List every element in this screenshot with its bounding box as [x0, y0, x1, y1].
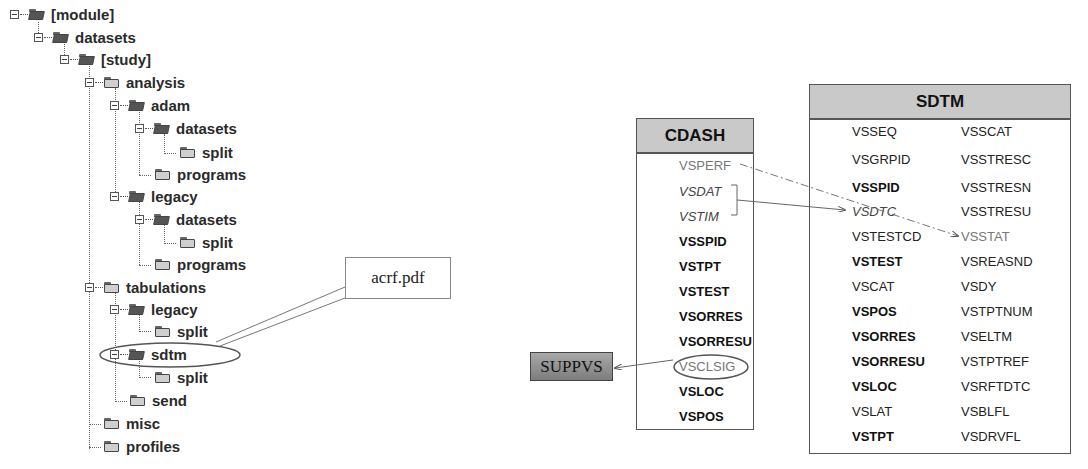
- sdtm-var: VSGRPID: [852, 152, 911, 167]
- folder-open-icon: [129, 304, 145, 315]
- tree-node-label: datasets: [176, 120, 237, 137]
- tree-node-module[interactable]: [module]: [10, 5, 114, 23]
- tree-node-send[interactable]: send: [130, 391, 187, 409]
- sdtm-var: VSORRESU: [852, 354, 925, 369]
- tree-node-legacy[interactable]: legacy: [110, 187, 198, 205]
- folder-closed-icon: [130, 395, 146, 406]
- callout-label: acrf.pdf: [371, 268, 424, 288]
- tree-node-label: programs: [177, 256, 246, 273]
- folder-open-icon: [129, 100, 145, 111]
- tree-node-legacy-split[interactable]: split: [180, 233, 233, 251]
- tree-node-adam[interactable]: adam: [110, 96, 190, 114]
- sdtm-var: VSSTRESN: [961, 180, 1031, 195]
- cdash-var: VSTEST: [679, 284, 730, 299]
- folder-closed-icon: [155, 372, 171, 383]
- tree-node-label: programs: [177, 166, 246, 183]
- tree-node-label: tabulations: [126, 279, 206, 296]
- sdtm-title: SDTM: [916, 92, 964, 112]
- collapse-icon[interactable]: [135, 124, 144, 133]
- tree-node-adam-programs[interactable]: programs: [155, 165, 246, 183]
- sdtm-var: VSSTRESU: [961, 204, 1031, 219]
- folder-closed-icon: [104, 418, 120, 429]
- sdtm-header: SDTM: [810, 85, 1070, 120]
- tree-node-study[interactable]: [study]: [60, 50, 151, 68]
- cdash-header: CDASH: [637, 119, 753, 154]
- tree-node-label: [study]: [101, 51, 151, 68]
- folder-closed-icon: [104, 282, 120, 293]
- cdash-var: VSORRES: [679, 309, 743, 324]
- sdtm-var: VSDY: [961, 279, 996, 294]
- tree-node-label: split: [177, 323, 208, 340]
- collapse-icon[interactable]: [34, 33, 43, 42]
- sdtm-var: VSTEST: [852, 254, 903, 269]
- tree-node-datasets[interactable]: datasets: [34, 28, 136, 46]
- sdtm-var: VSLAT: [852, 404, 892, 419]
- sdtm-var: VSCAT: [852, 279, 894, 294]
- folder-closed-icon: [180, 237, 196, 248]
- tree-node-tab-legacy[interactable]: legacy: [110, 300, 198, 318]
- tree-node-label: datasets: [176, 211, 237, 228]
- sdtm-var: VSORRES: [852, 329, 916, 344]
- sdtm-var: VSSPID: [852, 180, 900, 195]
- folder-closed-icon: [180, 147, 196, 158]
- tree-node-analysis[interactable]: analysis: [85, 73, 185, 91]
- cdash-var: VSLOC: [679, 384, 724, 399]
- sdtm-var: VSDRVFL: [961, 429, 1021, 444]
- folder-closed-icon: [155, 259, 171, 270]
- folder-open-icon: [154, 214, 170, 225]
- sdtm-var: VSRFTDTC: [961, 379, 1030, 394]
- sdtm-var: VSTPTNUM: [961, 304, 1033, 319]
- cdash-var: VSORRESU: [679, 334, 752, 349]
- tree-node-tabulations[interactable]: tabulations: [85, 278, 206, 296]
- collapse-icon[interactable]: [135, 215, 144, 224]
- sdtm-table: SDTM: [809, 84, 1071, 454]
- tree-node-label: split: [202, 234, 233, 251]
- sdtm-var: VSDTC: [852, 204, 896, 219]
- tree-node-label: adam: [151, 97, 190, 114]
- tree-node-sdtm[interactable]: sdtm: [110, 345, 187, 363]
- cdash-var: VSTPT: [679, 259, 721, 274]
- tree-node-misc[interactable]: misc: [104, 414, 160, 432]
- tree-node-label: split: [202, 144, 233, 161]
- tree-node-adam-datasets[interactable]: datasets: [135, 119, 237, 137]
- folder-open-icon: [129, 191, 145, 202]
- sdtm-var: VSSTAT: [961, 229, 1010, 244]
- collapse-icon[interactable]: [110, 192, 119, 201]
- cdash-var-vsclsig: VSCLSIG: [679, 359, 735, 374]
- tree-node-sdtm-split[interactable]: split: [155, 368, 208, 386]
- collapse-icon[interactable]: [110, 101, 119, 110]
- cdash-var: VSPOS: [679, 409, 724, 424]
- folder-open-icon: [29, 9, 45, 20]
- cdash-title: CDASH: [665, 126, 725, 146]
- sdtm-var: VSTPT: [852, 429, 894, 444]
- sdtm-var: VSTESTCD: [852, 229, 921, 244]
- folder-closed-icon: [104, 441, 120, 452]
- collapse-icon[interactable]: [110, 305, 119, 314]
- folder-open-icon: [53, 32, 69, 43]
- sdtm-var: VSSTRESC: [961, 152, 1031, 167]
- folder-open-icon: [154, 123, 170, 134]
- tree-node-label: send: [152, 392, 187, 409]
- tree-node-adam-split[interactable]: split: [180, 143, 233, 161]
- sdtm-var: VSPOS: [852, 304, 897, 319]
- sdtm-var: VSBLFL: [961, 404, 1009, 419]
- sdtm-var: VSTPTREF: [961, 354, 1029, 369]
- folder-closed-icon: [155, 169, 171, 180]
- tree-node-tab-legacy-split[interactable]: split: [155, 322, 208, 340]
- acrf-callout: acrf.pdf: [345, 257, 451, 299]
- collapse-icon[interactable]: [85, 78, 94, 87]
- tree-node-legacy-programs[interactable]: programs: [155, 255, 246, 273]
- tree-node-legacy-datasets[interactable]: datasets: [135, 210, 237, 228]
- tree-node-label: legacy: [151, 301, 198, 318]
- cdash-var: VSPERF: [679, 158, 731, 173]
- suppvs-label: SUPPVS: [540, 357, 602, 377]
- collapse-icon[interactable]: [85, 283, 94, 292]
- tree-node-profiles[interactable]: profiles: [104, 437, 180, 455]
- tree-node-label: profiles: [126, 438, 180, 455]
- suppvs-box: SUPPVS: [530, 352, 613, 381]
- collapse-icon[interactable]: [110, 350, 119, 359]
- collapse-icon[interactable]: [10, 10, 19, 19]
- collapse-icon[interactable]: [60, 55, 69, 64]
- tree-node-label: [module]: [51, 6, 114, 23]
- folder-open-icon: [79, 54, 95, 65]
